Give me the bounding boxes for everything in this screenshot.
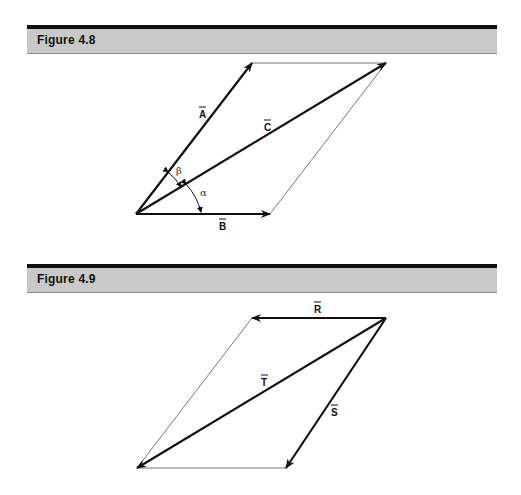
vector-t-arrow [137,318,386,468]
vector-c-arrow [136,63,386,214]
angle-beta-label: β [176,165,182,176]
vector-c-label: C [264,122,271,133]
vector-s-label: S [331,407,338,418]
vector-diagrams: A C B β α R T S [0,0,521,495]
vector-b-label: B [219,221,226,232]
vector-r-label: R [314,304,322,315]
angle-alpha-label: α [200,187,207,198]
angle-alpha-arc [186,184,201,212]
vector-a-label: A [199,109,206,120]
construction-line-right [270,63,386,214]
construction-line-left [137,318,252,468]
figure-4-8-diagram: A C B β α [136,63,386,232]
vector-t-label: T [261,377,267,388]
vector-s-arrow [286,318,386,468]
vector-a-arrow [136,63,252,214]
figure-4-9-diagram: R T S [137,302,386,468]
